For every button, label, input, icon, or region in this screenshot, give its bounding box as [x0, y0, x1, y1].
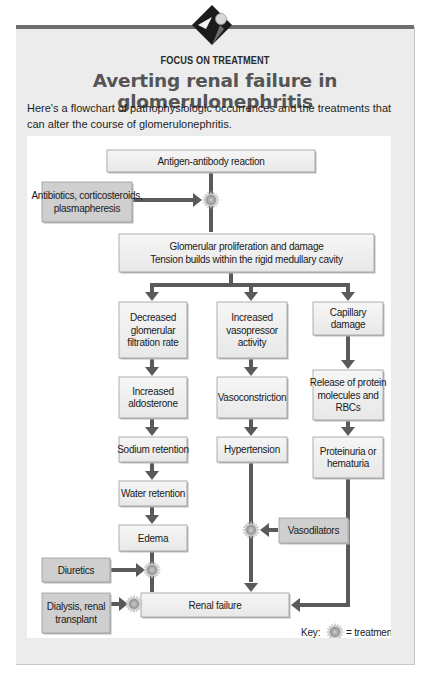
renal-failure-box: Renal failure: [141, 593, 291, 619]
water-retention-box-label: Water retention: [121, 488, 185, 499]
arrow-to-release: [341, 360, 355, 369]
arrow-antibiotics: [193, 193, 202, 207]
vasoconstriction-box-label: Vasoconstriction: [218, 392, 287, 403]
treatment-starburst-icon-vasodilators: [243, 522, 260, 539]
antibiotics-treatment-box-label: plasmapheresis: [54, 203, 121, 214]
vasopressor-box-label: activity: [238, 337, 267, 348]
flowchart: Antigen-antibody reactionAntibiotics, co…: [27, 136, 391, 638]
sodium-retention-box: Sodium retention: [117, 437, 189, 464]
treatment-starburst-icon-dialysis: [126, 596, 143, 613]
arrow-to-vasoconstriction: [244, 367, 258, 376]
gfr-box-label: glomerular: [131, 325, 177, 336]
edema-box-label: Edema: [138, 533, 169, 544]
arrow-to-renal-middle: [244, 583, 258, 592]
proteinuria-box: Proteinuria orhematuria: [313, 437, 385, 480]
diuretics-box-label: Diuretics: [58, 565, 95, 576]
arrow-to-gfr: [145, 292, 159, 301]
gfr-box: Decreasedglomerularfiltration rate: [119, 302, 189, 360]
proteinuria-box-label: Proteinuria or: [320, 446, 377, 457]
vasopressor-box-label: vasopressor: [226, 325, 279, 336]
section-kicker: FOCUS ON TREATMENT: [32, 55, 398, 66]
gfr-box-label: Decreased: [130, 312, 176, 323]
vasopressor-box: Increasedvasopressoractivity: [217, 302, 289, 360]
arrow-to-renal-right: [291, 598, 300, 612]
release-box: Release of proteinmolecules andRBCs: [310, 370, 387, 422]
release-box-label: Release of protein: [310, 377, 387, 388]
flowchart-panel: Antigen-antibody reactionAntibiotics, co…: [27, 136, 391, 638]
key-treatment-starburst-icon: [327, 624, 344, 639]
arrow-to-edema: [145, 515, 159, 524]
proteinuria-box-label: hematuria: [327, 458, 370, 469]
arrow-to-hypertension: [244, 427, 258, 436]
glomerular-box-label: Glomerular proliferation and damage: [169, 241, 324, 252]
arrow-to-sodium: [145, 427, 159, 436]
vasodilators-box: Vasodilators: [279, 518, 350, 545]
antibiotics-treatment-box-label: Antibiotics, corticosteroids,: [31, 190, 142, 201]
release-box-label: RBCs: [335, 402, 360, 413]
arrow-to-proteinuria: [341, 427, 355, 436]
hypertension-box-label: Hypertension: [224, 444, 280, 455]
capillary-box-label: damage: [331, 319, 366, 330]
diamond-sphere-logo-icon: [190, 3, 234, 47]
key-legend: Key:= treatment: [301, 624, 391, 639]
treatment-starburst-icon-antibiotics: [203, 192, 220, 209]
arrow-to-vasopressor: [244, 292, 258, 301]
treatment-starburst-icon-diuretics: [144, 562, 161, 579]
vasopressor-box-label: Increased: [231, 312, 273, 323]
renal-failure-box-label: Renal failure: [189, 600, 243, 611]
aldosterone-box-label: Increased: [132, 386, 174, 397]
key-label: Key:: [301, 627, 320, 638]
vasoconstriction-box: Vasoconstriction: [217, 377, 289, 420]
dialysis-box: Dialysis, renaltransplant: [42, 593, 112, 635]
capillary-box: Capillarydamage: [313, 302, 385, 337]
vasodilators-box-label: Vasodilators: [288, 525, 340, 536]
edema-box: Edema: [119, 525, 189, 553]
intro-text: Here's a flowchart of pathophysiologic o…: [27, 101, 407, 132]
water-retention-box: Water retention: [119, 481, 189, 508]
aldosterone-box: Increasedaldosterone: [119, 377, 189, 420]
gfr-box-label: filtration rate: [127, 337, 179, 348]
capillary-box-label: Capillary: [330, 307, 367, 318]
diuretics-box: Diuretics: [42, 558, 112, 584]
key-meaning: = treatment: [346, 627, 391, 638]
arrow-to-capillary: [341, 292, 355, 301]
glomerular-box: Glomerular proliferation and damageTensi…: [119, 234, 376, 274]
antibiotics-treatment-box: Antibiotics, corticosteroids,plasmaphere…: [31, 182, 142, 224]
aldosterone-box-label: aldosterone: [128, 398, 178, 409]
glomerular-box-label: Tension builds within the rigid medullar…: [150, 254, 343, 265]
arrow-to-aldosterone: [145, 367, 159, 376]
antigen-antibody-box-label: Antigen-antibody reaction: [157, 156, 264, 167]
arrow-vasodilators: [260, 523, 269, 537]
dialysis-box-label: transplant: [55, 614, 97, 625]
dialysis-box-label: Dialysis, renal: [47, 601, 106, 612]
hypertension-box: Hypertension: [217, 437, 289, 464]
boxes: Antigen-antibody reactionAntibiotics, co…: [31, 150, 386, 635]
arrow-to-water: [145, 471, 159, 480]
antigen-antibody-box: Antigen-antibody reaction: [107, 150, 317, 174]
sodium-retention-box-label: Sodium retention: [117, 444, 189, 455]
release-box-label: molecules and: [317, 390, 378, 401]
